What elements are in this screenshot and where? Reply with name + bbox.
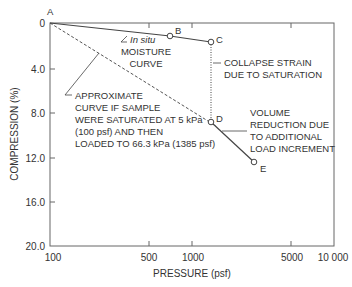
approx-arrow [65,53,99,95]
y-axis-label: COMPRESSION (%) [9,87,20,180]
point-e-label: E [260,163,266,174]
approx-label-3: WERE SATURATED AT 5 kPa [75,114,203,125]
x-tick-1000: 1000 [182,252,205,263]
point-d-marker [208,119,214,125]
approx-label-4: (100 psf) AND THEN [75,126,163,137]
y-tick-0: 0 [39,18,45,29]
x-axis-label: PRESSURE (psf) [153,268,231,279]
point-c-marker [208,39,214,45]
volume-label-1: VOLUME [250,107,290,118]
point-e-marker [251,159,257,165]
y-tick-8: 8.0 [31,108,45,119]
y-tick-4: 4.0 [31,64,45,75]
collapse-label-2: DUE TO SATURATION [224,69,322,80]
volume-label-4: LOAD INCREMENT [250,143,335,154]
insitu-arrow [121,36,127,42]
collapse-label-1: COLLAPSE STRAIN [224,57,312,68]
y-tick-12: 12.0 [26,153,46,164]
y-axis-ticks [50,69,55,202]
x-tick-5000: 5000 [281,252,304,263]
insitu-label-1: In situ [130,34,156,45]
point-a-label: A [47,6,54,17]
approx-label-5: LOADED TO 66.3 kPa (1385 psf) [75,138,215,149]
compression-chart: 0 4.0 8.0 12.0 16.0 20.0 100 500 1000 50… [0,0,352,287]
approx-label-2: CURVE IF SAMPLE [75,102,160,113]
volume-label-3: TO ADDITIONAL [250,131,322,142]
y-tick-16: 16.0 [26,197,46,208]
point-c-label: C [216,34,223,45]
point-b-marker [167,33,173,39]
point-b-label: B [175,25,181,36]
insitu-label-2: MOISTURE [121,46,171,57]
approx-label-1: APPROXIMATE [75,90,143,101]
point-d-label: D [216,113,223,124]
insitu-label-3: CURVE [129,58,162,69]
x-tick-100: 100 [45,252,62,263]
x-tick-500: 500 [141,252,158,263]
volume-label-2: REDUCTION DUE [250,119,329,130]
load-increment-line [211,122,254,162]
x-tick-10000: 10 000 [318,252,349,263]
y-tick-20: 20.0 [26,241,46,252]
